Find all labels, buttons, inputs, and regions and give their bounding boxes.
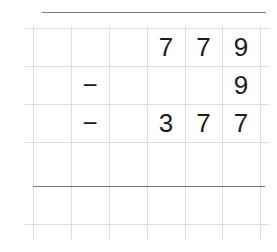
- cell-r3-c2[interactable]: 3: [147, 104, 185, 142]
- cell-r3-c3[interactable]: 7: [185, 104, 222, 142]
- operator-r3[interactable]: −: [71, 104, 109, 142]
- cell-r4-c2[interactable]: [147, 142, 185, 186]
- subtraction-worksheet: 7 7 9 − 9 − 3 7 7: [0, 0, 277, 252]
- cell-r4-c3[interactable]: [185, 142, 222, 186]
- cell-r1-c4[interactable]: 9: [222, 28, 260, 66]
- cell-r2-c4[interactable]: 9: [222, 66, 260, 104]
- cell-r1-c2[interactable]: 7: [147, 28, 185, 66]
- cell-r5-c2[interactable]: [147, 187, 185, 224]
- operator-r2[interactable]: −: [71, 66, 109, 104]
- cell-r5-c4[interactable]: [222, 187, 260, 224]
- cell-r5-c3[interactable]: [185, 187, 222, 224]
- cell-r1-c3[interactable]: 7: [185, 28, 222, 66]
- grid-line-vertical: [109, 26, 110, 240]
- cell-r3-c4[interactable]: 7: [222, 104, 260, 142]
- grid-line-horizontal: [25, 224, 269, 225]
- grid-line-vertical: [260, 26, 261, 240]
- top-rule: [42, 12, 266, 13]
- cell-r4-c4[interactable]: [222, 142, 260, 186]
- grid-line-vertical: [33, 26, 34, 240]
